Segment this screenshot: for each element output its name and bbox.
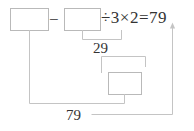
arrow-head-icon	[170, 23, 175, 29]
bracket-29	[83, 31, 122, 40]
diagram-canvas: − ÷3×2=79 29 79	[0, 0, 194, 131]
equation-tail: ÷3×2=79	[101, 9, 167, 26]
box-2[interactable]	[65, 9, 101, 31]
box-3[interactable]	[109, 73, 142, 95]
bracket-to-box3	[102, 57, 146, 73]
label-total-79: 79	[66, 108, 81, 123]
box-1[interactable]	[11, 9, 49, 31]
label-intermediate-29: 29	[93, 41, 108, 56]
minus-operator: −	[49, 11, 59, 28]
